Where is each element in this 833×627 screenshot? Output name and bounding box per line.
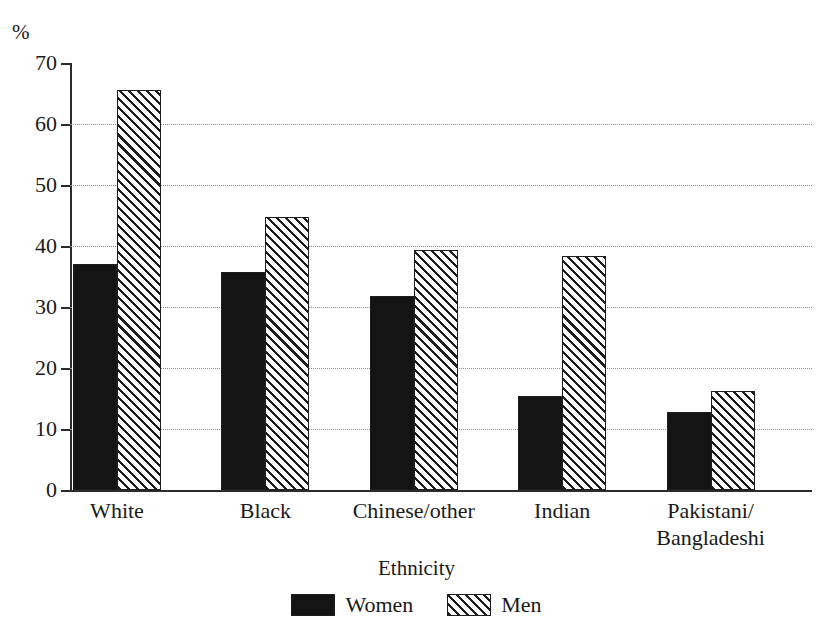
category-label: Chinese/other [353,497,475,524]
y-tick-label: 70 [35,52,57,74]
y-tick-mark [61,490,70,492]
y-tick-mark [61,307,70,309]
legend-item-women: Women [291,594,413,616]
bar-women-pakistanibangladeshi [667,412,711,490]
y-tick-label: 20 [35,357,57,379]
y-tick-mark [61,429,70,431]
legend-label: Men [501,594,541,616]
y-tick-mark [61,124,70,126]
bars-layer [70,63,812,490]
y-tick-mark [61,185,70,187]
bar-women-indian [518,396,562,490]
x-axis-line [70,490,812,492]
plot-area: 010203040506070 [70,63,812,490]
bar-chart: % 010203040506070 WhiteBlackChinese/othe… [0,0,833,627]
y-axis-unit-label: % [12,22,30,43]
bar-men-chineseother [414,250,458,490]
bar-men-black [265,217,309,490]
bar-women-black [221,272,265,490]
y-tick-mark [61,246,70,248]
category-label: Black [240,497,291,524]
x-axis-category-labels: WhiteBlackChinese/otherIndianPakistani/ … [70,497,812,559]
bar-men-pakistanibangladeshi [711,391,755,490]
x-axis-title: Ethnicity [0,556,833,580]
y-tick-mark [61,368,70,370]
bar-women-white [73,264,117,490]
bar-men-indian [562,256,606,490]
bar-men-white [117,90,161,490]
y-tick-mark [61,63,70,65]
bar-women-chineseother [370,296,414,490]
solid-swatch [291,594,335,616]
y-tick-label: 40 [35,235,57,257]
chart-legend: WomenMen [0,594,833,616]
legend-label: Women [345,594,413,616]
category-label: White [90,497,144,524]
hatched-swatch [447,594,491,616]
y-tick-label: 10 [35,418,57,440]
y-tick-label: 60 [35,113,57,135]
category-label: Indian [534,497,590,524]
y-tick-label: 50 [35,174,57,196]
legend-item-men: Men [447,594,541,616]
y-tick-label: 30 [35,296,57,318]
category-label: Pakistani/ Bangladeshi [656,497,765,551]
y-tick-label: 0 [46,479,57,501]
